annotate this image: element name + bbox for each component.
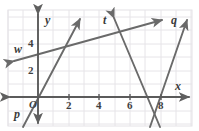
x-tick-label-6: 6 <box>127 100 133 111</box>
origin-label: O <box>29 99 37 110</box>
x-tick-label-4: 4 <box>96 100 102 111</box>
line-label-t: t <box>103 14 106 26</box>
coordinate-plane-figure: w p t q y x O 4 2 2 4 6 8 <box>0 0 199 131</box>
x-tick-label-8: 8 <box>158 100 164 111</box>
line-label-p: p <box>14 108 20 120</box>
y-axis-label: y <box>45 14 50 26</box>
x-axis-label: x <box>175 80 181 92</box>
line-label-w: w <box>14 43 22 55</box>
x-tick-label-2: 2 <box>66 100 72 111</box>
y-tick-label-2: 2 <box>28 65 34 76</box>
y-tick-label-4: 4 <box>28 38 34 49</box>
line-label-q: q <box>171 14 177 26</box>
